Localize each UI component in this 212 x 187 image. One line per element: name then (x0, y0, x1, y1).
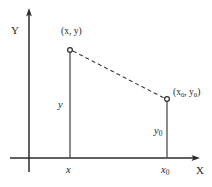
coordinate-diagram-figure: Y X (x, y) (x0, y0) y y0 x x0 (0, 0, 212, 187)
y-axis-label: Y (11, 25, 19, 36)
point-label-mid: , y (184, 87, 194, 97)
connector-dashed-line (73, 51, 164, 98)
point-label-upper-left: (x, y) (61, 27, 82, 37)
tick-label-x: x (66, 165, 71, 176)
point-marker-lower-right (165, 97, 170, 102)
segment-label-y: y (58, 100, 63, 111)
tick-label-x0: x0 (161, 165, 169, 177)
segment-label-y0: y0 (154, 126, 162, 138)
segment-label-y0-sub: 0 (159, 129, 163, 138)
x-axis-label: X (196, 165, 204, 176)
tick-label-x0-sub: 0 (166, 168, 170, 177)
point-label-lower-right: (x0, y0) (173, 88, 200, 99)
point-label-open: (x (173, 87, 181, 97)
point-label-close: ) (197, 87, 200, 97)
point-marker-upper-left (68, 48, 73, 53)
